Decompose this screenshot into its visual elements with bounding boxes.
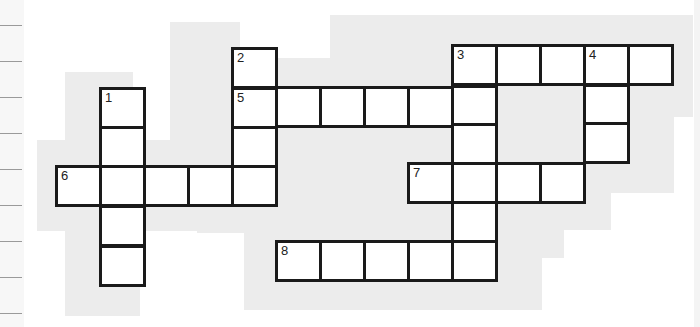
clue-number: 4 <box>589 48 596 61</box>
crossword-cell[interactable] <box>495 44 542 86</box>
crossword-cell[interactable] <box>99 205 146 247</box>
crossword-cell[interactable] <box>319 240 366 282</box>
crossword-cell[interactable] <box>99 245 146 287</box>
crossword-cell[interactable] <box>539 162 586 204</box>
crossword-cell[interactable] <box>451 85 498 127</box>
crossword-cell[interactable]: 5 <box>231 87 278 129</box>
clue-number: 5 <box>237 91 244 104</box>
crossword-grid: 12563478 <box>0 0 700 327</box>
crossword-cell[interactable] <box>451 240 498 282</box>
crossword-cell[interactable] <box>451 162 498 204</box>
crossword-cell[interactable] <box>99 165 146 207</box>
crossword-cell[interactable] <box>407 240 454 282</box>
crossword-cell[interactable] <box>627 44 674 86</box>
crossword-cell[interactable]: 7 <box>407 162 454 204</box>
crossword-cell[interactable]: 4 <box>583 44 630 86</box>
crossword-cell[interactable] <box>495 162 542 204</box>
crossword-cell[interactable] <box>231 165 278 207</box>
crossword-cell[interactable]: 2 <box>231 47 278 89</box>
crossword-cell[interactable]: 6 <box>55 165 102 207</box>
crossword-cell[interactable] <box>275 86 322 128</box>
crossword-cell[interactable] <box>363 86 410 128</box>
clue-number: 2 <box>237 51 244 64</box>
crossword-cell[interactable] <box>407 86 454 128</box>
clue-number: 6 <box>61 169 68 182</box>
crossword-cell[interactable] <box>143 165 190 207</box>
crossword-cell[interactable] <box>583 84 630 126</box>
crossword-cell[interactable]: 3 <box>451 44 498 86</box>
crossword-cell[interactable]: 1 <box>99 87 146 129</box>
crossword-cell[interactable] <box>583 122 630 164</box>
crossword-cell[interactable] <box>539 44 586 86</box>
crossword-cell[interactable] <box>451 201 498 243</box>
clue-number: 3 <box>457 48 464 61</box>
crossword-cell[interactable] <box>99 126 146 168</box>
crossword-cell[interactable] <box>319 86 366 128</box>
crossword-cell[interactable] <box>451 123 498 165</box>
clue-number: 8 <box>281 244 288 257</box>
crossword-cell[interactable] <box>231 126 278 168</box>
crossword-cell[interactable]: 8 <box>275 240 322 282</box>
crossword-cell[interactable] <box>363 240 410 282</box>
clue-number: 1 <box>105 91 112 104</box>
clue-number: 7 <box>413 166 420 179</box>
crossword-cell[interactable] <box>187 165 234 207</box>
